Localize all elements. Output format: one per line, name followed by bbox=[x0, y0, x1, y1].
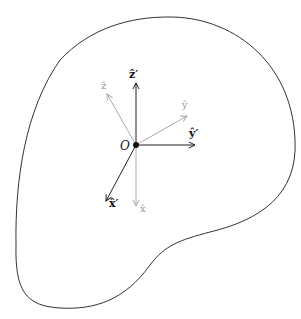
z-axis-line bbox=[107, 94, 136, 145]
x-prime-axis-line bbox=[106, 145, 136, 201]
z-prime-label: ẑ′ bbox=[129, 68, 138, 81]
origin-label: O bbox=[120, 139, 130, 153]
z-label: ẑ bbox=[101, 80, 106, 91]
origin-point bbox=[133, 142, 139, 148]
x-label: x̂ bbox=[140, 203, 146, 214]
y-axis-line bbox=[136, 116, 187, 145]
y-label: ŷ bbox=[181, 99, 188, 110]
rigid-body-outline bbox=[16, 17, 295, 308]
x-prime-label: x̂′ bbox=[109, 197, 119, 210]
diagram-canvas: O ẑ′ ŷ′ x̂′ ẑ ŷ x̂ bbox=[0, 0, 301, 319]
y-prime-label: ŷ′ bbox=[188, 127, 198, 140]
diagram-svg: O ẑ′ ŷ′ x̂′ ẑ ŷ x̂ bbox=[0, 0, 301, 319]
